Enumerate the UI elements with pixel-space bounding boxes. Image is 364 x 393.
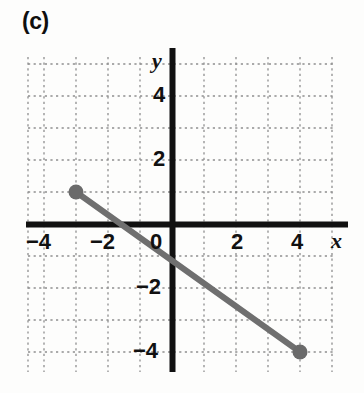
x-tick-label-four: 4 xyxy=(291,231,303,253)
figure-panel: (c) xyxy=(0,0,364,393)
data-point-marker xyxy=(293,345,308,360)
y-tick-label-four: 4 xyxy=(153,84,165,106)
x-tick-label-zero: 0 xyxy=(150,231,162,253)
y-tick-label-minus-four: −4 xyxy=(133,340,158,362)
x-tick-label-minus2: −2 xyxy=(90,231,115,253)
y-axis-name: y xyxy=(152,50,162,72)
grid-lines xyxy=(28,57,334,372)
x-tick-label-two: 2 xyxy=(231,231,243,253)
plot-svg xyxy=(0,0,364,393)
x-axis-name: x xyxy=(331,230,342,252)
data-point-marker xyxy=(69,185,84,200)
y-tick-label-two: 2 xyxy=(153,148,165,170)
y-tick-label-minus-two: −2 xyxy=(136,276,161,298)
x-tick-label-minus4: −4 xyxy=(26,231,51,253)
data-line-segment xyxy=(76,192,300,352)
coordinate-plane: −4 −2 0 2 4 x y 4 2 −2 −4 xyxy=(0,0,364,393)
